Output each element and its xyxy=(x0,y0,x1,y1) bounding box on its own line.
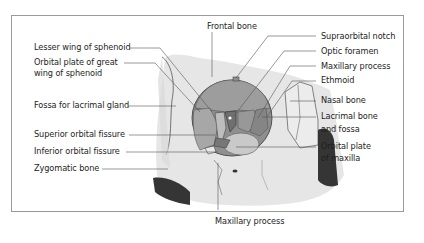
label-lacrimal-line2: and fossa xyxy=(321,124,360,135)
label-supraorbital-notch: Supraorbital notch xyxy=(321,31,395,42)
label-superior-orbital-fissure: Superior orbital fissure xyxy=(34,129,125,140)
label-maxillary-process-top: Maxillary process xyxy=(321,61,390,72)
label-ethmoid: Ethmoid xyxy=(321,75,354,86)
label-lesser-wing: Lesser wing of sphenoid xyxy=(34,42,131,53)
label-orbital-plate-great-wing-line1: Orbital plate of great xyxy=(34,57,118,68)
maxilla-floor xyxy=(223,133,259,155)
label-orbital-plate-great-wing-line2: wing of sphenoid xyxy=(34,68,102,79)
label-orbital-plate-maxilla-line2: of maxilla xyxy=(321,153,360,164)
label-zygomatic: Zygomatic bone xyxy=(34,163,99,174)
label-orbital-plate-maxilla-line1: Orbital plate xyxy=(321,141,371,152)
label-nasal: Nasal bone xyxy=(321,95,366,106)
label-inferior-orbital-fissure: Inferior orbital fissure xyxy=(34,146,120,157)
label-frontal: Frontal bone xyxy=(207,21,257,32)
label-lacrimal-line1: Lacrimal bone xyxy=(321,111,378,122)
label-lacrimal-fossa: Fossa for lacrimal gland xyxy=(34,100,129,111)
label-optic-foramen: Optic foramen xyxy=(321,46,378,57)
label-maxillary-process-bottom: Maxillary process xyxy=(215,216,284,227)
